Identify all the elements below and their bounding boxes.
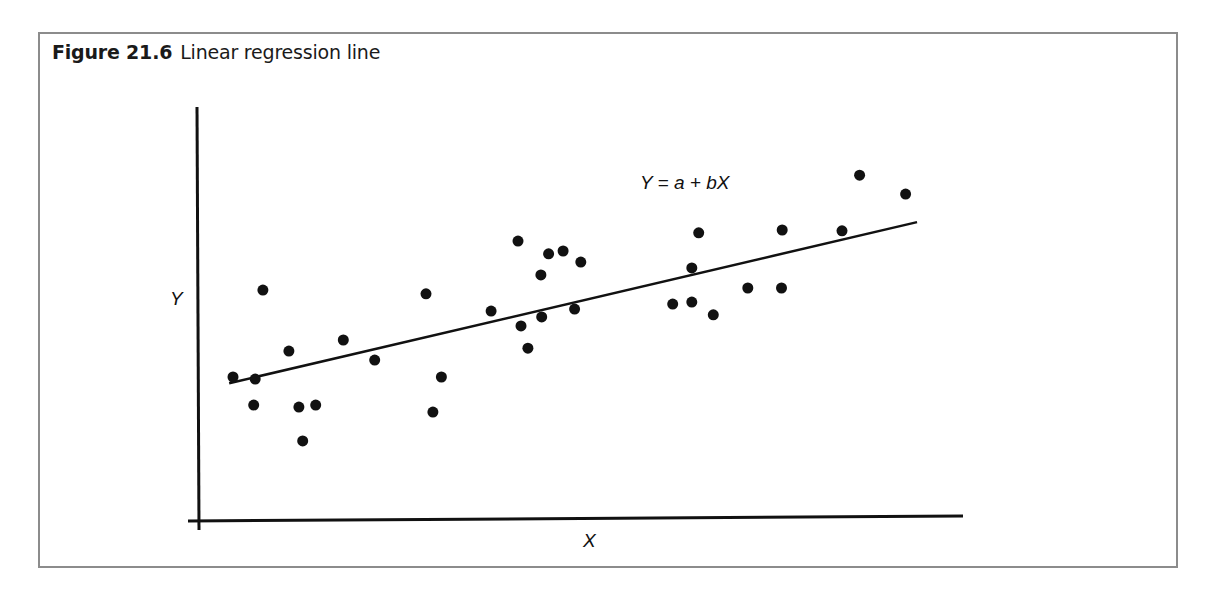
x-axis bbox=[188, 516, 963, 521]
data-point bbox=[250, 374, 261, 385]
data-point bbox=[516, 320, 527, 331]
data-point bbox=[421, 288, 432, 299]
data-point bbox=[686, 262, 697, 273]
data-point bbox=[575, 257, 586, 268]
data-point bbox=[283, 346, 294, 357]
data-point bbox=[513, 236, 524, 247]
regression-line bbox=[229, 222, 917, 383]
data-point bbox=[558, 246, 569, 257]
data-point bbox=[427, 407, 438, 418]
data-point bbox=[837, 225, 848, 236]
data-point bbox=[900, 189, 911, 200]
data-point bbox=[297, 435, 308, 446]
data-point bbox=[436, 372, 447, 383]
data-point bbox=[667, 299, 678, 310]
data-point bbox=[248, 400, 259, 411]
data-point bbox=[536, 311, 547, 322]
regression-equation: Y = a + bX bbox=[640, 172, 731, 193]
data-point bbox=[777, 225, 788, 236]
data-point bbox=[854, 170, 865, 181]
data-point bbox=[522, 343, 533, 354]
data-point bbox=[310, 400, 321, 411]
data-point bbox=[693, 227, 704, 238]
y-axis-label: Y bbox=[170, 288, 184, 309]
data-point bbox=[708, 309, 719, 320]
data-point bbox=[742, 283, 753, 294]
data-point bbox=[338, 335, 349, 346]
x-axis-label: X bbox=[582, 530, 597, 551]
data-point bbox=[686, 297, 697, 308]
data-point bbox=[776, 283, 787, 294]
scatter-plot: Y X Y = a + bX bbox=[0, 0, 1209, 608]
data-point bbox=[569, 304, 580, 315]
data-points bbox=[228, 170, 912, 447]
data-point bbox=[486, 306, 497, 317]
data-point bbox=[228, 372, 239, 383]
data-point bbox=[257, 285, 268, 296]
data-point bbox=[293, 402, 304, 413]
data-point bbox=[535, 269, 546, 280]
y-axis bbox=[197, 107, 199, 530]
data-point bbox=[543, 248, 554, 259]
data-point bbox=[369, 355, 380, 366]
